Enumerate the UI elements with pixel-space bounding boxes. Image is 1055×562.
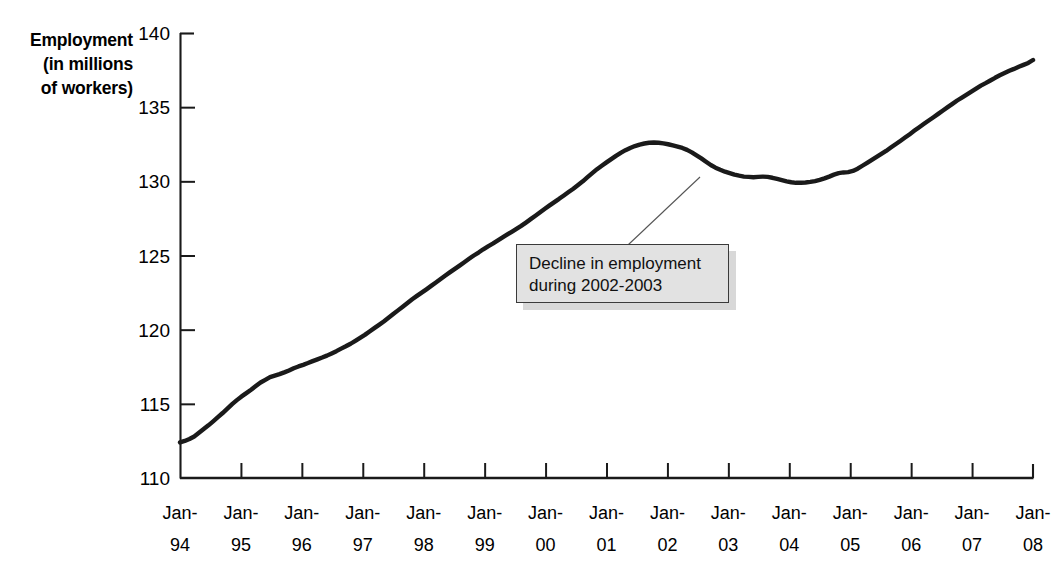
x-axis-tick-label-month: Jan- — [284, 503, 319, 523]
x-axis-tick-label-month: Jan- — [406, 503, 441, 523]
x-axis-tick-label-month: Jan- — [955, 503, 990, 523]
x-axis-tick-label-month: Jan- — [833, 503, 868, 523]
chart-canvas: Employment (in millions of workers) 1101… — [0, 0, 1055, 562]
x-axis-tick-label-year: 98 — [414, 535, 434, 555]
y-axis-tick-label: 140 — [138, 23, 170, 44]
x-axis-tick-label-month: Jan- — [223, 503, 258, 523]
x-axis-tick-label-year: 07 — [962, 535, 982, 555]
x-axis-tick-label-month: Jan- — [345, 503, 380, 523]
annotation-text-line-1: Decline in employment — [529, 253, 701, 275]
y-axis-tick-label: 110 — [140, 468, 170, 489]
x-axis-tick-label-year: 06 — [901, 535, 921, 555]
annotation-callout-box: Decline in employment during 2002-2003 — [516, 244, 729, 303]
x-axis-tick-label-year: 99 — [475, 535, 495, 555]
x-axis-tick-label-month: Jan- — [528, 503, 563, 523]
x-axis-tick-label-month: Jan- — [467, 503, 502, 523]
x-axis-tick-label-year: 05 — [840, 535, 860, 555]
annotation-leader-line — [628, 177, 700, 245]
x-axis-tick-label-month: Jan- — [894, 503, 929, 523]
x-axis-tick-label-year: 95 — [231, 535, 251, 555]
x-axis-tick-label-month: Jan- — [162, 503, 197, 523]
x-axis-tick-label-year: 94 — [170, 535, 190, 555]
x-axis-tick-label-month: Jan- — [650, 503, 685, 523]
x-axis-tick-label-year: 01 — [596, 535, 616, 555]
x-axis-tick-marks — [241, 463, 972, 477]
x-axis-tick-label-month: Jan- — [1015, 503, 1050, 523]
x-axis-tick-label-year: 08 — [1023, 535, 1043, 555]
annotation-text: Decline in employment during 2002-2003 — [529, 253, 701, 297]
y-axis-tick-labels: 110115120125130135140 — [138, 23, 170, 489]
x-axis-tick-label-year: 96 — [292, 535, 312, 555]
x-axis-tick-label-month: Jan- — [711, 503, 746, 523]
x-axis-tick-label-year: 04 — [779, 535, 799, 555]
y-axis-tick-label: 135 — [138, 97, 170, 118]
x-axis-tick-label-year: 97 — [353, 535, 373, 555]
x-axis-tick-label-year: 03 — [718, 535, 738, 555]
y-axis-tick-label: 115 — [140, 394, 170, 415]
x-axis-tick-labels: Jan-94Jan-95Jan-96Jan-97Jan-98Jan-99Jan-… — [162, 503, 1050, 555]
x-axis-tick-label-month: Jan- — [589, 503, 624, 523]
y-axis-tick-label: 125 — [138, 246, 170, 267]
y-axis-tick-label: 120 — [138, 320, 170, 341]
annotation-text-line-2: during 2002-2003 — [529, 275, 701, 297]
x-axis-tick-label-year: 00 — [536, 535, 556, 555]
x-axis-tick-label-year: 02 — [657, 535, 677, 555]
y-axis-tick-marks — [181, 108, 195, 405]
x-axis-tick-label-month: Jan- — [772, 503, 807, 523]
y-axis-tick-label: 130 — [138, 171, 170, 192]
